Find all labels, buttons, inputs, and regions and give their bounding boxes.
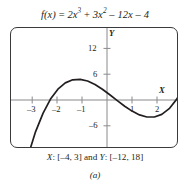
range-x-interval: : [–4, 3] xyxy=(52,152,84,162)
function-equation-title: f(x) = 2x3 + 3x2 – 12x – 4 xyxy=(0,7,190,20)
x-axis-label: X xyxy=(159,86,165,95)
range-y-interval: : [–12, 18] xyxy=(105,152,144,162)
range-conjunction: and xyxy=(84,152,100,162)
y-tick-label-6: 6 xyxy=(93,70,97,79)
equation-function-name: f(x) xyxy=(41,9,56,20)
y-tick-label-neg6: –6 xyxy=(89,121,98,130)
graph-figure: f(x) = 2x3 + 3x2 – 12x – 4 Y X –3 –2 –1 … xyxy=(0,0,190,190)
y-axis-label: Y xyxy=(109,29,114,38)
x-tick-label-neg1: –1 xyxy=(77,105,86,114)
equation-term2-coefficient: 3x xyxy=(93,9,103,20)
function-curve xyxy=(14,68,177,147)
y-tick-label-12: 12 xyxy=(88,44,97,53)
equation-term4: – 4 xyxy=(133,9,149,20)
x-tick-label-neg2: –2 xyxy=(52,105,61,114)
x-tick-label-pos2: 2 xyxy=(155,105,159,114)
x-tick-label-neg3: –3 xyxy=(27,105,36,114)
panel-label: (a) xyxy=(0,170,190,180)
equation-term1-coefficient: 2x xyxy=(67,9,77,20)
equation-equals: = xyxy=(56,9,67,20)
equation-term3: – 12x xyxy=(107,9,133,20)
equation-term2-operator: + xyxy=(81,9,92,20)
plot-frame: Y X –3 –2 –1 1 2 12 6 –6 xyxy=(10,27,178,148)
x-tick-label-pos1: 1 xyxy=(130,105,134,114)
axis-range-caption: X: [–4, 3] and Y: [–12, 18] xyxy=(0,152,190,162)
